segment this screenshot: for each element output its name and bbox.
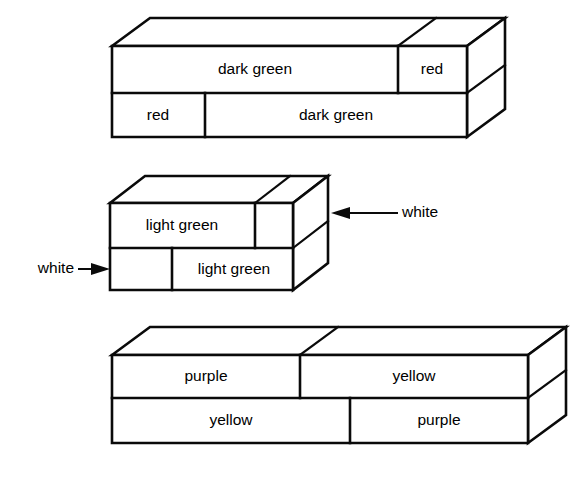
- rod-diagram: dark green red red dark green: [0, 0, 580, 477]
- block2-callout-right: white: [331, 203, 438, 220]
- block3-top-left-label: purple: [184, 367, 227, 384]
- block2-top-left-label: light green: [146, 216, 218, 233]
- block3-top-right-label: yellow: [392, 367, 436, 384]
- block3-bottom-left-label: yellow: [209, 411, 253, 428]
- rod-block-purple-yellow: purple yellow yellow purple: [112, 327, 566, 443]
- block3-top-face: [112, 327, 566, 355]
- block2-top-face: [110, 176, 328, 203]
- block1-top-left-label: dark green: [218, 60, 292, 77]
- figure-container: dark green red red dark green: [0, 0, 580, 477]
- block3-bottom-right-label: purple: [417, 411, 460, 428]
- block1-top-face: [112, 18, 505, 46]
- block2-callout-left-arrowhead: [91, 263, 110, 275]
- block1-bottom-right-label: dark green: [299, 106, 373, 123]
- block1-top-right-label: red: [421, 60, 443, 77]
- block2-callout-right-label: white: [401, 203, 438, 220]
- block1-bottom-left-label: red: [147, 106, 169, 123]
- rod-block-light-green-white: light green light green white white: [37, 176, 438, 290]
- block2-callout-left: white: [37, 259, 110, 276]
- block2-bottom-right-label: light green: [198, 260, 270, 277]
- rod-block-dark-green-red: dark green red red dark green: [112, 18, 505, 137]
- block2-callout-left-label: white: [37, 259, 74, 276]
- block2-callout-right-arrowhead: [331, 207, 350, 219]
